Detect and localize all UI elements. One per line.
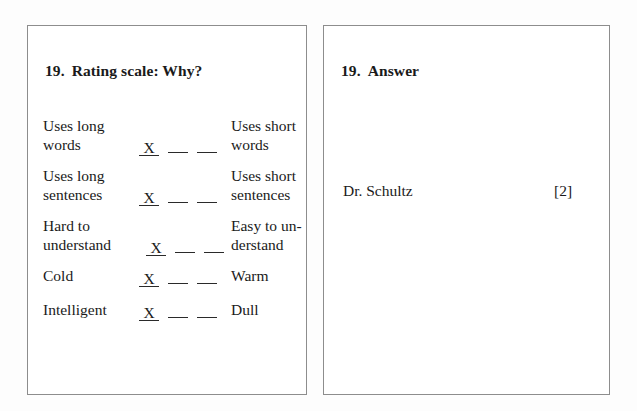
scale-marks: X <box>139 300 217 322</box>
scale-option-slot[interactable] <box>168 185 188 203</box>
rating-scale-list: Uses long words X Uses short words Uses … <box>43 116 298 334</box>
scale-option-slot[interactable] <box>197 185 217 203</box>
scale-option-slot[interactable]: X <box>139 188 159 206</box>
answer-heading-text: Answer <box>368 62 419 79</box>
scale-option-slot[interactable]: X <box>139 269 159 287</box>
answer-heading: 19.Answer <box>341 62 419 80</box>
question-heading-number: 19. <box>45 62 65 79</box>
rating-scale-row: Hard to understand X Easy to un- derstan… <box>43 216 298 266</box>
worksheet-page: 19.Rating scale: Why? Uses long words X … <box>0 0 637 411</box>
scale-left-label-line: Hard to <box>43 216 223 235</box>
scale-right-label: Easy to un- derstand <box>231 216 326 254</box>
scale-right-label: Dull <box>231 300 326 319</box>
scale-right-label-line: Dull <box>231 300 326 319</box>
scale-option-slot[interactable] <box>197 300 217 318</box>
scale-marks: X <box>139 266 217 288</box>
rating-scale-row: Uses long words X Uses short words <box>43 116 298 166</box>
scale-right-label-line: Uses short <box>231 166 326 185</box>
answer-marks-badge: [2] <box>554 181 572 200</box>
scale-right-label-line: sentences <box>231 185 326 204</box>
scale-marks: X <box>139 185 217 207</box>
rating-scale-row: Cold X Warm <box>43 266 298 300</box>
scale-option-slot[interactable]: X <box>139 303 159 321</box>
scale-right-label: Uses short words <box>231 116 326 154</box>
scale-option-slot[interactable]: X <box>146 238 166 256</box>
scale-left-label-line: Uses long <box>43 116 223 135</box>
answer-value: Dr. Schultz <box>343 181 413 200</box>
answer-panel: 19.Answer Dr. Schultz [2] <box>323 25 610 395</box>
scale-right-label: Warm <box>231 266 326 285</box>
scale-right-label-line: derstand <box>231 235 326 254</box>
scale-option-slot[interactable] <box>175 235 195 253</box>
scale-option-slot[interactable] <box>168 266 188 284</box>
scale-right-label-line: Uses short <box>231 116 326 135</box>
rating-scale-row: Uses long sentences X Uses short sentenc… <box>43 166 298 216</box>
scale-marks: X <box>139 135 217 157</box>
scale-right-label-line: Easy to un- <box>231 216 326 235</box>
scale-right-label-line: words <box>231 135 326 154</box>
scale-option-slot[interactable] <box>197 266 217 284</box>
question-heading-text: Rating scale: Why? <box>72 62 203 79</box>
scale-option-slot[interactable] <box>197 135 217 153</box>
scale-option-slot[interactable] <box>168 300 188 318</box>
scale-right-label-line: Warm <box>231 266 326 285</box>
scale-option-slot[interactable]: X <box>139 138 159 156</box>
scale-left-label-line: Uses long <box>43 166 223 185</box>
scale-right-label: Uses short sentences <box>231 166 326 204</box>
rating-scale-row: Intelligent X Dull <box>43 300 298 334</box>
question-panel: 19.Rating scale: Why? Uses long words X … <box>27 25 307 395</box>
answer-heading-number: 19. <box>341 62 361 79</box>
scale-marks: X <box>146 235 224 257</box>
scale-option-slot[interactable] <box>168 135 188 153</box>
scale-option-slot[interactable] <box>204 235 224 253</box>
question-heading: 19.Rating scale: Why? <box>45 62 202 80</box>
